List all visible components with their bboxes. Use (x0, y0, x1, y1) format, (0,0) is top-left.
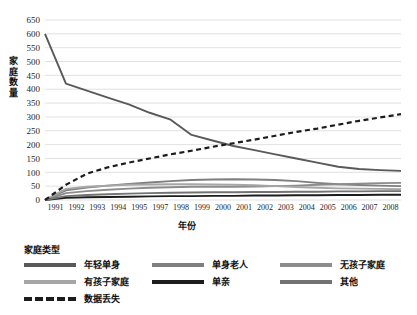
y-tick-label: 0 (36, 195, 41, 205)
y-tick-label: 100 (27, 168, 41, 178)
y-tick-label: 150 (27, 154, 41, 164)
x-tick-label: 1997 (152, 203, 168, 212)
legend-item[interactable]: 有孩子家庭 (24, 275, 152, 288)
gridlines (45, 20, 401, 200)
legend-label: 年轻单身 (84, 258, 120, 271)
legend-swatch-icon (152, 263, 204, 267)
legend-label: 单身老人 (212, 258, 248, 271)
legend-item[interactable]: 年轻单身 (24, 258, 152, 271)
legend-swatch-icon (152, 280, 204, 284)
y-tick-label: 500 (27, 57, 41, 67)
legend-swatch-icon (24, 280, 76, 284)
y-tick-label: 300 (27, 112, 41, 122)
legend-label: 其他 (340, 275, 358, 288)
x-tick-label: 1998 (173, 203, 189, 212)
legend-item[interactable]: 单亲 (152, 275, 280, 288)
y-axis-title-char: 家 (6, 56, 20, 67)
legend: 家庭类型 年轻单身单身老人无孩子家庭有孩子家庭单亲其他数据丢失 (24, 243, 404, 305)
x-tick-label: 2004 (299, 203, 315, 212)
y-tick-label: 50 (31, 181, 41, 191)
y-tick-label: 350 (27, 98, 41, 108)
x-tick-label: 1991 (47, 203, 63, 212)
y-axis-title: 家 庭 数 量 (6, 56, 20, 98)
x-tick-label: 2005 (320, 203, 336, 212)
series-line (45, 34, 401, 171)
y-tick-label: 600 (27, 29, 41, 39)
chart-container: 050100150200250300350400450500550600650 … (0, 0, 417, 315)
y-tick-label: 550 (27, 43, 41, 53)
y-tick-label: 400 (27, 84, 41, 94)
legend-label: 无孩子家庭 (340, 258, 385, 271)
x-tick-label: 1995 (131, 203, 147, 212)
legend-items: 年轻单身单身老人无孩子家庭有孩子家庭单亲其他数据丢失 (24, 256, 404, 307)
legend-label: 数据丢失 (84, 292, 120, 305)
legend-row: 数据丢失 (24, 290, 404, 307)
legend-label: 有孩子家庭 (84, 275, 129, 288)
y-axis-title-char: 庭 (6, 67, 20, 78)
x-tick-labels: 1991199219931994199519971998199920002001… (47, 203, 398, 212)
y-tick-label: 450 (27, 71, 41, 81)
x-tick-label: 2008 (383, 203, 399, 212)
legend-item[interactable]: 其他 (280, 275, 404, 288)
legend-label: 单亲 (212, 275, 230, 288)
x-tick-label: 2000 (215, 203, 231, 212)
x-tick-label: 2002 (257, 203, 273, 212)
plot-area: 050100150200250300350400450500550600650 … (0, 0, 417, 232)
legend-item[interactable]: 无孩子家庭 (280, 258, 404, 271)
legend-title: 家庭类型 (24, 243, 60, 256)
legend-swatch-icon (24, 263, 76, 267)
y-tick-label: 200 (27, 140, 41, 150)
x-tick-label: 1994 (110, 203, 126, 212)
x-tick-label: 2006 (341, 203, 357, 212)
line-chart-svg: 050100150200250300350400450500550600650 … (0, 0, 417, 232)
series-line (45, 195, 401, 200)
legend-item[interactable]: 单身老人 (152, 258, 280, 271)
x-tick-label: 2003 (278, 203, 294, 212)
legend-row: 年轻单身单身老人无孩子家庭 (24, 256, 404, 273)
legend-swatch-icon (24, 297, 76, 301)
x-tick-label: 2007 (362, 203, 378, 212)
legend-swatch-icon (280, 263, 332, 267)
legend-swatch-icon (280, 280, 332, 284)
x-axis-title: 年份 (178, 219, 196, 232)
x-tick-label: 2001 (236, 203, 252, 212)
x-tick-label: 1992 (68, 203, 84, 212)
y-axis-title-char: 量 (6, 88, 20, 99)
y-axis-title-char: 数 (6, 77, 20, 88)
x-tick-label: 1999 (194, 203, 210, 212)
y-tick-label: 650 (27, 15, 41, 25)
x-tick-label: 1993 (89, 203, 105, 212)
y-tick-label: 250 (27, 126, 41, 136)
legend-item[interactable]: 数据丢失 (24, 292, 152, 305)
y-tick-labels: 050100150200250300350400450500550600650 (27, 15, 41, 205)
legend-row: 有孩子家庭单亲其他 (24, 273, 404, 290)
